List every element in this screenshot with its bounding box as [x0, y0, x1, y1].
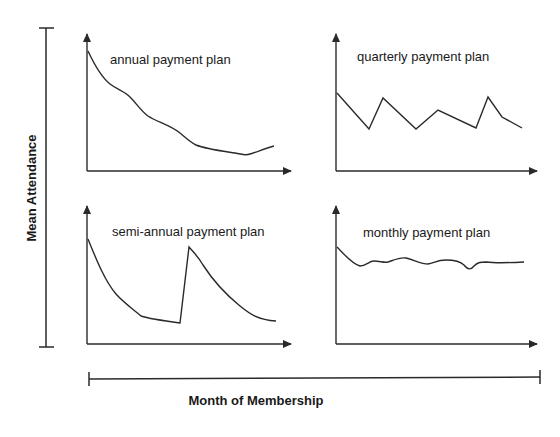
- panel-title: annual payment plan: [110, 52, 231, 67]
- x-range-bracket: [89, 370, 540, 386]
- figure-canvas: Mean Attendance Month of Membership annu…: [0, 0, 560, 437]
- y-range-bracket: [39, 28, 54, 347]
- attendance-line: [337, 93, 522, 129]
- panel-semi-annual: semi-annual payment plan: [87, 206, 291, 344]
- panel-title: quarterly payment plan: [357, 49, 489, 64]
- y-axis-title: Mean Attendance: [24, 134, 39, 241]
- panel-monthly: monthly payment plan: [336, 206, 537, 344]
- panel-annual: annual payment plan: [87, 34, 291, 171]
- panel-title: monthly payment plan: [363, 225, 490, 240]
- panel-quarterly: quarterly payment plan: [336, 34, 537, 171]
- attendance-line: [337, 247, 524, 269]
- panel-title: semi-annual payment plan: [112, 224, 264, 239]
- x-axis-title: Month of Membership: [188, 393, 323, 408]
- attendance-line: [88, 239, 276, 323]
